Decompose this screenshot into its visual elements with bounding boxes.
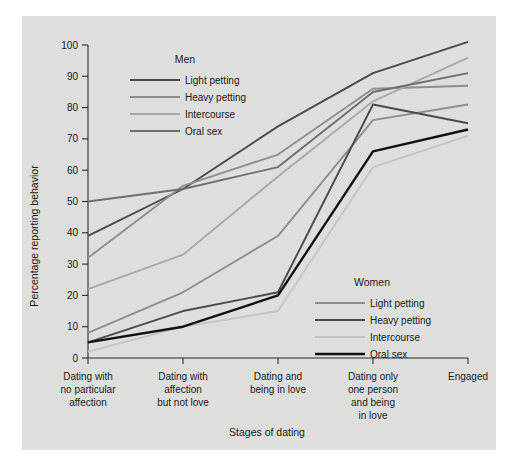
series-line-men-oral-sex: [88, 73, 468, 201]
line-chart: 0102030405060708090100 Dating withno par…: [22, 16, 496, 450]
y-tick-label: 40: [67, 227, 79, 238]
x-category-label: affection: [164, 384, 202, 395]
x-category-label: Dating and: [254, 371, 302, 382]
x-category-label: in love: [359, 410, 388, 421]
legend-label-intercourse: Intercourse: [185, 109, 235, 120]
y-tick-label: 50: [67, 196, 79, 207]
y-tick-label: 70: [67, 133, 79, 144]
y-tick-label: 60: [67, 165, 79, 176]
series-line-men-light-petting: [88, 42, 468, 236]
legend-label-oral-sex: Oral sex: [370, 349, 407, 360]
x-category-label: Dating only: [348, 371, 398, 382]
y-axis-ticks: 0102030405060708090100: [61, 40, 88, 364]
y-tick-label: 20: [67, 290, 79, 301]
legend-label-light-petting: Light petting: [185, 75, 240, 86]
y-tick-label: 10: [67, 321, 79, 332]
y-tick-label: 100: [61, 40, 78, 51]
x-category-label: no particular: [60, 384, 116, 395]
y-axis-title: Percentage reporting behavior: [28, 165, 40, 307]
legend-women: WomenLight pettingHeavy pettingIntercour…: [315, 276, 431, 360]
x-category-label: and being: [351, 397, 395, 408]
chart-plate: 0102030405060708090100 Dating withno par…: [22, 16, 496, 450]
legend-label-light-petting: Light petting: [370, 298, 425, 309]
x-category-label: Dating with: [63, 371, 112, 382]
x-category-label: one person: [348, 384, 398, 395]
legend-title: Men: [175, 53, 196, 65]
x-category-label: Engaged: [448, 371, 488, 382]
x-axis-title: Stages of dating: [229, 426, 305, 438]
x-category-label: affection: [69, 397, 107, 408]
x-category-label: being in love: [250, 384, 307, 395]
y-tick-label: 0: [72, 353, 78, 364]
legend-men: MenLight pettingHeavy pettingIntercourse…: [130, 53, 246, 137]
legend-label-heavy-petting: Heavy petting: [370, 315, 431, 326]
y-tick-label: 90: [67, 71, 79, 82]
series-line-men-intercourse: [88, 58, 468, 290]
legend-title: Women: [354, 276, 390, 288]
y-tick-label: 30: [67, 259, 79, 270]
x-axis-ticks: [88, 358, 468, 364]
figure-page: 0102030405060708090100 Dating withno par…: [0, 0, 513, 463]
x-category-label: Dating with: [158, 371, 207, 382]
y-tick-label: 80: [67, 102, 79, 113]
legend-label-intercourse: Intercourse: [370, 332, 420, 343]
legend-label-heavy-petting: Heavy petting: [185, 92, 246, 103]
legend-label-oral-sex: Oral sex: [185, 126, 222, 137]
x-axis-category-labels: Dating withno particularaffectionDating …: [60, 371, 488, 421]
x-category-label: but not love: [157, 397, 209, 408]
